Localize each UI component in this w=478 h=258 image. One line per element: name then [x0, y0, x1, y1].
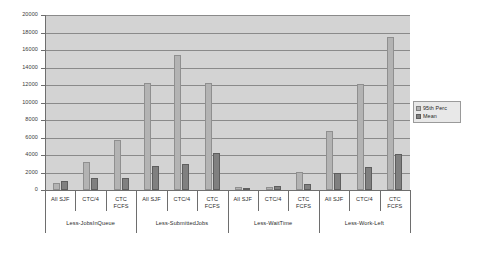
gridline [45, 155, 410, 156]
bar-95th-perc [387, 37, 394, 190]
category-label: CTC FCFS [106, 196, 136, 210]
y-tick-label: 10000 [0, 99, 38, 105]
legend-item-95th-perc: 95th Perc [416, 104, 458, 112]
bar-mean [122, 178, 129, 190]
bar-95th-perc [357, 84, 364, 190]
y-tick-label: 6000 [0, 134, 38, 140]
category-label: All SJF [136, 196, 166, 203]
bar-95th-perc [296, 172, 303, 190]
legend-swatch-95th-perc-icon [416, 106, 421, 111]
y-tick-label: 12000 [0, 81, 38, 87]
bar-mean [61, 181, 68, 190]
category-label: CTC/4 [258, 196, 288, 203]
gridline [45, 33, 410, 34]
bar-mean [152, 166, 159, 191]
bar-mean [395, 154, 402, 190]
category-label: CTC/4 [167, 196, 197, 203]
bar-mean [274, 186, 281, 190]
bar-95th-perc [53, 183, 60, 190]
y-axis-line [45, 15, 46, 191]
y-tick-label: 14000 [0, 64, 38, 70]
y-tick-label: 18000 [0, 29, 38, 35]
category-label: CTC FCFS [197, 196, 227, 210]
gridline [45, 103, 410, 104]
group-separator [410, 190, 411, 233]
chart-legend: 95th Perc Mean [413, 101, 461, 123]
bar-95th-perc [144, 83, 151, 190]
bar-chart: 0200040006000800010000120001400016000180… [0, 0, 478, 258]
y-tick-label: 4000 [0, 151, 38, 157]
bar-95th-perc [266, 187, 273, 190]
category-label: All SJF [45, 196, 75, 203]
gridline [45, 120, 410, 121]
legend-label-mean: Mean [423, 113, 437, 119]
category-label: CTC FCFS [288, 196, 318, 210]
group-separator [45, 190, 46, 233]
bar-mean [365, 167, 372, 190]
legend-swatch-mean-icon [416, 114, 421, 119]
group-label: Less-Work-Left [319, 220, 410, 226]
category-label: CTC/4 [349, 196, 379, 203]
category-label: All SJF [319, 196, 349, 203]
gridline [45, 138, 410, 139]
group-label: Less-SubmittedJobs [136, 220, 227, 226]
bar-95th-perc [83, 162, 90, 190]
bar-95th-perc [326, 131, 333, 190]
gridline [45, 68, 410, 69]
legend-item-mean: Mean [416, 112, 458, 120]
y-tick-label: 20000 [0, 11, 38, 17]
bar-95th-perc [174, 55, 181, 190]
gridline [45, 15, 410, 16]
bar-mean [304, 184, 311, 190]
y-tick-label: 16000 [0, 46, 38, 52]
y-tick-label: 8000 [0, 116, 38, 122]
gridline [45, 50, 410, 51]
legend-label-95th-perc: 95th Perc [423, 105, 447, 111]
gridline [45, 85, 410, 86]
y-tick-label: 0 [0, 186, 38, 192]
category-label: CTC FCFS [380, 196, 410, 210]
bar-95th-perc [205, 83, 212, 190]
category-label: All SJF [228, 196, 258, 203]
bar-mean [91, 178, 98, 190]
bar-mean [334, 173, 341, 191]
y-tick-label: 2000 [0, 169, 38, 175]
group-label: Less-JobsInQueue [45, 220, 136, 226]
category-label: CTC/4 [75, 196, 105, 203]
bar-mean [243, 188, 250, 190]
gridline [45, 173, 410, 174]
bar-mean [213, 153, 220, 190]
group-label: Less-WaitTime [228, 220, 319, 226]
bar-95th-perc [114, 140, 121, 190]
bar-95th-perc [235, 187, 242, 191]
bar-mean [182, 164, 189, 190]
